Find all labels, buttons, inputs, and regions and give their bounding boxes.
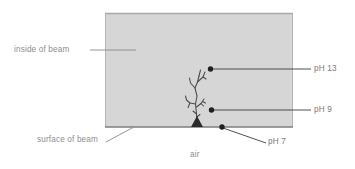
label-ph7: pH 7: [268, 138, 286, 146]
marker-ph7: [219, 124, 224, 129]
beam-ph-diagram: inside of beam surface of beam air pH 13…: [0, 0, 355, 169]
label-air: air: [190, 151, 200, 159]
label-ph13: pH 13: [314, 65, 337, 73]
marker-ph9: [209, 107, 214, 112]
label-ph9: pH 9: [314, 106, 332, 114]
marker-ph13: [208, 66, 213, 71]
leader-ph7: [223, 128, 266, 143]
label-surface-of-beam: surface of beam: [37, 136, 98, 144]
leader-surface-of-beam: [106, 128, 133, 143]
label-inside-of-beam: inside of beam: [14, 46, 69, 54]
